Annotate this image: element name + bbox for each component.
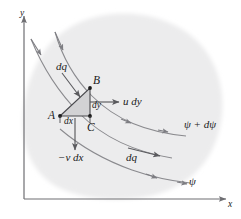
x-axis-label: x [228,200,232,210]
vertex-b-label: B [93,75,100,87]
dq-lower-label: dq [126,152,137,163]
vertex-b-dot [88,86,92,90]
dx-label: dx [64,117,73,127]
streamline-lower-label: ψ [189,176,196,187]
figure-canvas [0,0,241,219]
u-dy-label: u dy [123,96,142,107]
dq-upper-label: dq [56,61,67,72]
vertex-a-label: A [48,110,55,122]
y-axis-label: y [20,9,24,19]
stream-function-figure: y x A B C dx dy dq dq u dy −v dx ψ + dψ … [0,0,241,219]
dy-label: dy [92,101,101,111]
streamline-upper-label: ψ + dψ [184,119,216,130]
vertex-c-label: C [87,122,95,134]
minus-v-dx-label: −v dx [58,152,83,163]
streamline-arrow-1 [31,39,41,55]
